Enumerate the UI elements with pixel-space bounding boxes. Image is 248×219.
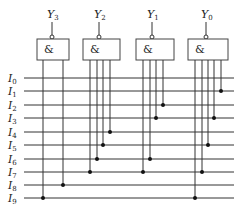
and-symbol: & (195, 43, 205, 56)
junction-dot-icon (206, 143, 210, 147)
and-symbol: & (90, 43, 100, 56)
input-label: I0 (7, 72, 17, 86)
encoder-diagram: I0I1I2I3I4I5I6I7I8I9 Y3&Y2&Y1&Y0& (0, 0, 248, 219)
input-label: I7 (7, 166, 17, 180)
input-line-I3: I3 (7, 112, 234, 126)
junction-dot-icon (95, 157, 99, 161)
input-label: I3 (7, 112, 17, 126)
input-line-I0: I0 (7, 72, 234, 86)
output-label: Y1 (147, 8, 159, 22)
input-label: I1 (7, 85, 17, 99)
junction-dot-icon (108, 130, 112, 134)
input-line-I6: I6 (7, 153, 234, 167)
and-symbol: & (44, 43, 54, 56)
gate-box (83, 39, 120, 60)
and-symbol: & (143, 43, 153, 56)
input-label: I2 (7, 99, 17, 113)
input-label: I5 (7, 139, 17, 153)
input-label: I8 (7, 179, 17, 193)
output-label: Y0 (201, 8, 213, 22)
output-label: Y3 (47, 8, 59, 22)
junction-dot-icon (219, 89, 223, 93)
and-gate-Y0: Y0& (188, 8, 228, 200)
input-label: I9 (7, 192, 17, 206)
junction-dot-icon (61, 183, 65, 187)
inverter-bubble-icon (97, 35, 101, 39)
junction-dot-icon (200, 170, 204, 174)
input-line-I7: I7 (7, 166, 234, 180)
input-line-I1: I1 (7, 85, 234, 99)
and-gate-Y3: Y3& (37, 8, 69, 200)
junction-dot-icon (101, 143, 105, 147)
inverter-bubble-icon (150, 35, 154, 39)
junction-dot-icon (41, 196, 45, 200)
junction-dot-icon (212, 116, 216, 120)
input-lines: I0I1I2I3I4I5I6I7I8I9 (7, 72, 234, 206)
junction-dot-icon (154, 116, 158, 120)
input-line-I4: I4 (7, 126, 234, 140)
junction-dot-icon (88, 170, 92, 174)
input-line-I8: I8 (7, 179, 234, 193)
inverter-bubble-icon (204, 35, 208, 39)
junction-dot-icon (148, 157, 152, 161)
junction-dot-icon (161, 103, 165, 107)
gate-box (136, 39, 174, 60)
output-label: Y2 (94, 8, 106, 22)
input-line-I5: I5 (7, 139, 234, 153)
inverter-bubble-icon (50, 35, 54, 39)
input-label: I6 (7, 153, 17, 167)
input-line-I9: I9 (7, 192, 234, 206)
junction-dot-icon (141, 170, 145, 174)
junction-dot-icon (193, 196, 197, 200)
gate-box (188, 39, 228, 60)
input-line-I2: I2 (7, 99, 234, 113)
and-gates: Y3&Y2&Y1&Y0& (37, 8, 228, 200)
input-label: I4 (7, 126, 17, 140)
